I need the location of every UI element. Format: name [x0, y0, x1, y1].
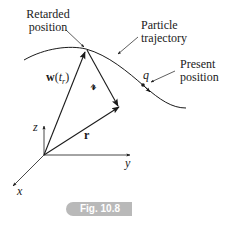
figure-caption-badge: Fig. 10.8	[66, 202, 132, 216]
present-label-line2: position	[180, 71, 219, 84]
w-symbol: w	[46, 70, 55, 84]
charge-dot	[141, 83, 145, 87]
y-axis-label: y	[125, 157, 130, 170]
charge-label: q	[143, 69, 149, 82]
present-position-label: Present position	[180, 58, 219, 84]
x-axis	[13, 155, 44, 186]
particle-trajectory-label: Particle trajectory	[141, 19, 187, 45]
w-vector-label: w(tr)	[46, 71, 69, 88]
z-axis-label: z	[33, 121, 38, 134]
particle-trajectory-leader	[118, 37, 138, 54]
separation-vector-label: 𝓇	[91, 80, 96, 93]
w-vector	[44, 52, 85, 155]
separation-vector	[87, 50, 118, 106]
present-position-leader	[151, 71, 175, 82]
position-vector-label: r	[84, 129, 89, 142]
position-vector	[44, 107, 119, 155]
w-paren-close: )	[65, 70, 69, 84]
trajectory-label-line2: trajectory	[141, 32, 187, 45]
retarded-position-label: Retarded position	[22, 8, 74, 34]
x-axis-label: x	[17, 185, 22, 198]
retarded-label-line2: position	[22, 21, 74, 34]
